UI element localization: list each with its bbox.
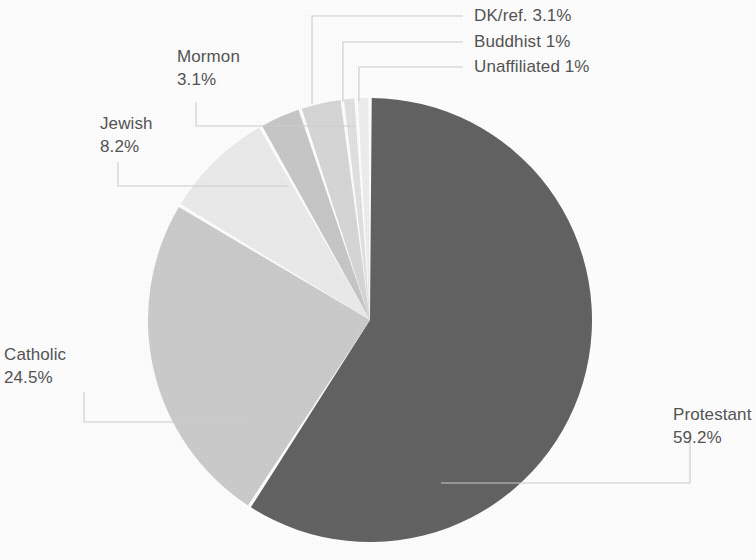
pie-label-protestant-name: Protestant — [673, 405, 752, 424]
pie-label-catholic-name: Catholic — [4, 345, 66, 364]
pie-label-jewish: Jewish 8.2% — [100, 112, 153, 158]
pie-label-mormon: Mormon 3.1% — [177, 45, 240, 91]
pie-chart: Protestant 59.2% Catholic 24.5% Jewish 8… — [0, 0, 756, 560]
pie-label-mormon-value: 3.1% — [177, 68, 240, 91]
pie-label-catholic-value: 24.5% — [4, 366, 66, 389]
pie-label-unaffiliated-text: Unaffiliated 1% — [474, 57, 590, 76]
pie-label-jewish-name: Jewish — [100, 114, 153, 133]
pie-label-catholic: Catholic 24.5% — [4, 343, 66, 389]
pie-slices — [148, 98, 592, 542]
pie-label-protestant-value: 59.2% — [673, 426, 752, 449]
pie-label-jewish-value: 8.2% — [100, 135, 153, 158]
pie-label-unaffiliated: Unaffiliated 1% — [474, 55, 590, 78]
pie-label-buddhist-text: Buddhist 1% — [474, 32, 571, 51]
pie-label-dkref: DK/ref. 3.1% — [474, 4, 572, 27]
leader-line-unaffiliated — [359, 67, 463, 101]
pie-label-dkref-text: DK/ref. 3.1% — [474, 6, 572, 25]
pie-label-buddhist: Buddhist 1% — [474, 30, 571, 53]
pie-label-protestant: Protestant 59.2% — [673, 403, 752, 449]
pie-chart-canvas — [0, 0, 756, 560]
pie-label-mormon-name: Mormon — [177, 47, 240, 66]
leader-line-dkref — [312, 16, 463, 104]
leader-line-buddhist — [343, 42, 463, 102]
